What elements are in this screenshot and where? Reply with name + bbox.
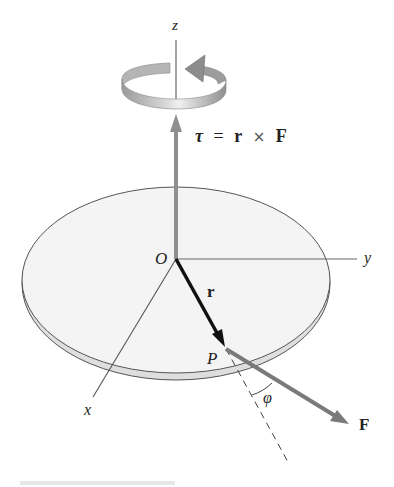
x-axis-label: x	[84, 402, 91, 418]
equals-sign: =	[214, 126, 224, 146]
r-symbol: r	[234, 126, 242, 146]
y-axis-label: y	[364, 250, 371, 266]
cross-symbol: ×	[253, 128, 266, 146]
force-vector	[226, 349, 349, 424]
rotation-arrow-icon	[122, 55, 226, 109]
position-vector-label: r	[207, 283, 215, 300]
force-label: F	[359, 416, 369, 433]
torque-equation: τ = r × F	[195, 127, 287, 145]
diagram-canvas	[0, 0, 394, 487]
z-axis-label: z	[172, 18, 178, 33]
tau-symbol: τ	[195, 126, 203, 146]
angle-phi-label: φ	[263, 390, 272, 406]
origin-label: O	[155, 250, 167, 267]
f-symbol: F	[276, 126, 287, 146]
bottom-bar	[20, 481, 175, 485]
torque-diagram: z y x O r P φ F τ = r × F	[0, 0, 394, 487]
point-p-label: P	[207, 350, 217, 367]
